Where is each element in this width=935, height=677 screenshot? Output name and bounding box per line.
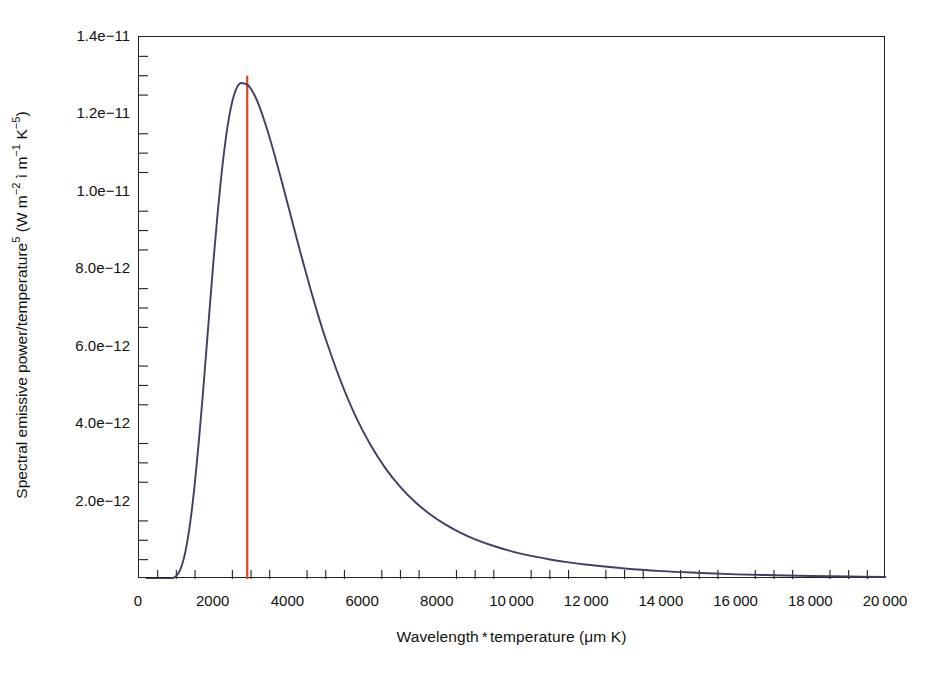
y-axis-title-sup-3: −1	[11, 144, 23, 157]
x-axis-tick-label: 18 000	[788, 593, 833, 608]
y-axis-tick-label: 4.0e−12	[34, 415, 130, 430]
x-axis-tick-label: 4000	[271, 593, 304, 608]
plot-canvas	[139, 37, 886, 579]
y-axis-title-sup-2: −2	[11, 183, 23, 196]
x-axis-tick-label: 10 000	[489, 593, 534, 608]
y-axis-tick-label: 2.0e−12	[34, 493, 130, 508]
x-axis-tick-label: 16 000	[713, 593, 758, 608]
y-axis-tick-label: 1.4e−11	[34, 28, 130, 43]
x-axis-tick-label: 8000	[420, 593, 453, 608]
y-axis-tick-label: 1.2e−11	[34, 105, 130, 120]
x-axis-tick-label: 20 000	[863, 593, 908, 608]
y-axis-title-sup-1: 5	[11, 237, 23, 243]
y-axis-tick-label: 1.0e−11	[34, 183, 130, 198]
x-axis-tick-label: 0	[134, 593, 142, 608]
x-axis-title: Wavelength*temperature (μm K)	[138, 628, 885, 646]
x-axis-tick-label: 14 000	[639, 593, 684, 608]
y-axis-minor-ticks	[139, 56, 148, 559]
x-axis-title-text: Wavelength*temperature (μm K)	[397, 628, 627, 645]
y-axis-tick-label: 8.0e−12	[34, 260, 130, 275]
x-axis-tick-label: 6000	[345, 593, 378, 608]
y-axis-title-sup-4: −5	[11, 117, 23, 130]
x-axis-tick-label: 2000	[196, 593, 229, 608]
x-axis-tick-labels: 0200040006000800010 00012 00014 00016 00…	[0, 593, 935, 617]
y-axis-tick-labels: 2.0e−124.0e−126.0e−128.0e−121.0e−111.2e−…	[26, 0, 130, 677]
x-axis-tick-label: 12 000	[564, 593, 609, 608]
y-axis-tick-label: 6.0e−12	[34, 338, 130, 353]
data-series-layer	[146, 83, 886, 579]
data-series-line	[146, 83, 886, 579]
x-axis-title-base-1: Wavelength	[397, 628, 479, 645]
chart-figure: Spectral emissive power/temperature5 (W …	[0, 0, 935, 677]
plot-area	[138, 36, 885, 578]
x-axis-title-separator: *	[482, 628, 488, 645]
x-axis-title-base-2: temperature (μm K)	[490, 628, 627, 645]
